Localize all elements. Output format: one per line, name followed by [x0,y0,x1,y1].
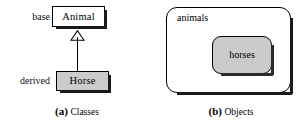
caption-tag-b: (b) [209,105,222,117]
caption-tag-a: (a) [55,105,68,117]
caption-text-b: Objects [224,107,253,117]
caption-panel-b: (b) Objects [154,105,308,118]
class-box-animal: Animal [52,6,105,27]
panel-objects: animals horses (b) Objects [154,0,308,121]
set-shadow-bottom [177,92,293,95]
set-shadow-right [290,18,293,95]
caption-panel-a: (a) Classes [0,105,154,118]
class-box-animal-label: Animal [62,11,95,23]
panel-classes: base Animal derived Horse (a) Classes [0,0,154,121]
class-box-horse-label: Horse [69,75,95,87]
base-annotation-label: base [8,11,50,23]
figure-classes-and-objects: base Animal derived Horse (a) Classes [0,0,308,121]
derived-annotation-label: derived [0,75,50,87]
set-animals-label: animals [177,12,208,24]
class-box-horse: Horse [56,71,109,91]
set-animals: animals horses [166,7,291,93]
set-horses: horses [212,36,272,74]
set-shadow-bottom [221,73,274,76]
box-shadow-bottom [60,90,111,93]
set-shadow-right [271,45,274,76]
inheritance-connector-line [77,37,78,71]
set-horses-label: horses [229,49,255,61]
caption-text-a: Classes [70,107,99,117]
